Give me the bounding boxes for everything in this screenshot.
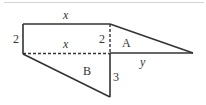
label-left-height: 2: [13, 32, 19, 46]
triangle-b-hypotenuse: [23, 54, 110, 97]
label-right-base: y: [139, 55, 146, 69]
label-top-width: x: [62, 8, 69, 22]
figure-outline: [23, 24, 193, 97]
label-inner-height: 2: [99, 32, 105, 46]
label-region-a: A: [122, 36, 131, 50]
diagram-frame: x 2 x 2 A y B 3: [0, 0, 206, 105]
label-mid-width: x: [62, 37, 69, 51]
label-region-b: B: [83, 64, 91, 78]
label-lower-height: 3: [113, 70, 119, 84]
composite-figure: x 2 x 2 A y B 3: [0, 0, 206, 105]
